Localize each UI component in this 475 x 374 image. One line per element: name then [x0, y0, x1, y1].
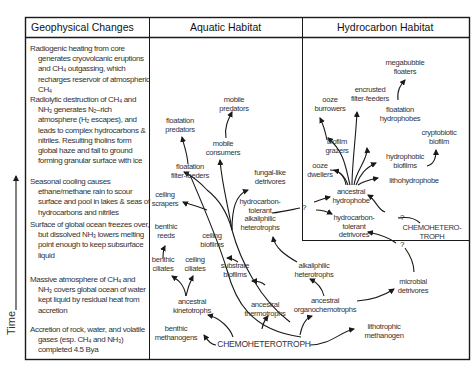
node-floatation-predators: floatationpredators [165, 117, 194, 134]
node-lithohydrophobe: lithohydrophobe [389, 177, 439, 186]
geophysical-event-5: Massive atmosphere of CH₄ and NH₃ covers… [30, 275, 150, 316]
node-mobile-consumers: mobileconsumers [206, 140, 240, 157]
geophysical-event-4: Surface of global ocean freezes over, bu… [30, 220, 150, 261]
node-benthic-ciliates: benthicciliates [152, 256, 174, 273]
node-cryptobiotic-biofilm: cryptobioticbiofilm [422, 129, 457, 146]
node-hydrocarbon-tolerant-alkaliphilic-heterotrophs: hydrocarbon-tolerantalkaliphilicheterotr… [239, 198, 280, 232]
node-ancestral-hydrophobe: ancestralhydrophobe [332, 188, 369, 205]
geophysical-event-text: Radiolytic destruction of CH₄ and NH₃ ge… [30, 95, 150, 166]
header-geophysical-changes: Geophysical Changes [31, 21, 134, 33]
uncertain-link-marker: ? [302, 203, 306, 212]
geophysical-event-6: Accretion of rock, water, and volatile g… [30, 325, 150, 356]
node-megabubble-floaters: megabubblefloaters [386, 59, 425, 76]
titan-life-diagram: Geophysical Changes Aquatic Habitat Hydr… [0, 0, 475, 374]
node-ancestral-organochemotrophs: ancestralorganochemotrophs [294, 297, 356, 314]
node-ceiling-ciliates: ceilingciliates [185, 256, 206, 273]
node-ceiling-biofilms: ceilingbiofilms [200, 232, 223, 249]
header-aquatic-habitat: Aquatic Habitat [190, 21, 261, 33]
node-lithotrophic-methanogen: lithotrophicmethanogen [364, 323, 403, 340]
geophysical-event-text: Radiogenic heating from core generates c… [30, 44, 150, 95]
geophysical-event-1: Radiogenic heating from core generates c… [30, 44, 150, 95]
node-ancestral-kinetotrophs: ancestralkinetotrophs [173, 298, 211, 315]
node-floatation-filter-feeders: floatationfilter-feeders [171, 163, 209, 180]
node-microbial-detrivores: microbialdetrivores [398, 278, 428, 295]
node-ooze-dwellers: oozedwellers [307, 162, 332, 179]
node-substrate-biofilms: substratebiofilms [221, 262, 250, 279]
node-chemoheterotroph-hc: CHEMOHETERO-TROPH [403, 224, 462, 241]
node-hydrophobic-biofilms: hydrophobicbiofilms [386, 153, 424, 170]
geophysical-event-2: Radiolytic destruction of CH₄ and NH₃ ge… [30, 95, 150, 166]
node-ceiling-scrapers: ceilingscrapers [152, 191, 179, 208]
node-ancestral-thermotrophs: ancestralthermotrophs [244, 301, 285, 318]
node-benthic-reeds: benthicreeds [155, 223, 177, 240]
node-alkaliphilic-heterotrophs: alkaliphilicheterotrophs [294, 262, 333, 279]
node-fungal-like-detrivores: fungal-likedetrivores [254, 169, 285, 186]
node-floatation-hydrophobes: floatationhydrophobes [380, 106, 421, 123]
node-hydrocarbon-tolerant-detrivores: hydrocarbon-tolerantdetrivores [333, 214, 374, 240]
time-axis-label: Time [5, 311, 17, 335]
uncertain-link-marker: ? [400, 213, 404, 222]
node-ooze-burrowers: oozeburrowers [314, 96, 345, 113]
geophysical-event-text: Seasonal cooling causes ethane/methane r… [30, 177, 150, 218]
node-mobile-predators: mobilepredators [219, 96, 248, 113]
node-chemoheterotroph: CHEMOHETEROTROPH [217, 340, 311, 349]
header-hydrocarbon-habitat: Hydrocarbon Habitat [337, 21, 433, 33]
geophysical-event-3: Seasonal cooling causes ethane/methane r… [30, 177, 150, 218]
geophysical-event-text: Massive atmosphere of CH₄ and NH₃ covers… [30, 275, 150, 316]
geophysical-event-text: Accretion of rock, water, and volatile g… [30, 325, 150, 356]
geophysical-event-text: Surface of global ocean freezes over, bu… [30, 220, 150, 261]
node-benthic-methanogens: benthicmethanogens [155, 325, 198, 342]
node-biofilm-grazers: biofilmgrazers [325, 138, 348, 155]
uncertain-link-marker: ? [400, 240, 404, 249]
node-encrusted-filter-feeders: encrustedfilter-feeders [351, 86, 389, 103]
